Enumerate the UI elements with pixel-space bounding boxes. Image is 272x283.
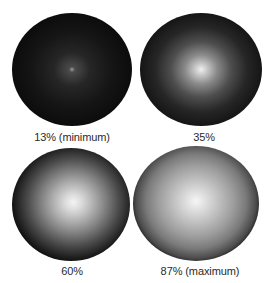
sphere-label-87-percent: 87% (maximum) (132, 265, 268, 277)
sphere-label-13-percent: 13% (minimum) (4, 131, 140, 143)
sphere-label-60-percent: 60% (4, 265, 140, 277)
sphere-label-35-percent: 35% (136, 131, 272, 143)
sphere-13-percent (12, 13, 132, 126)
sphere-60-percent (12, 148, 130, 261)
sphere-87-percent (133, 146, 259, 261)
sphere-35-percent (140, 13, 262, 126)
